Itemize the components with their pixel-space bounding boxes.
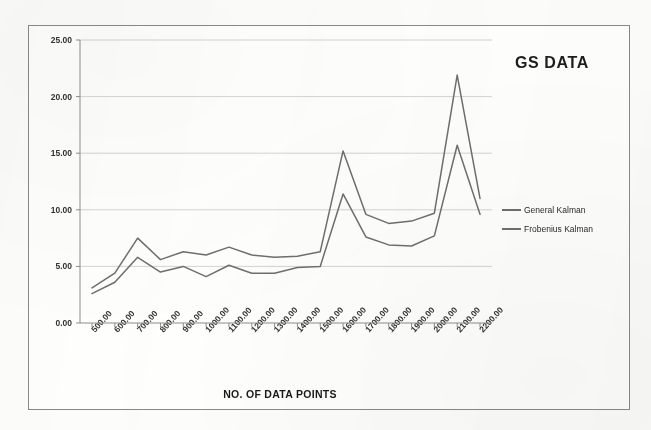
y-tick-label: 10.00	[51, 205, 73, 215]
y-tick-label: 20.00	[51, 92, 73, 102]
x-tick-label: 600.00	[112, 308, 137, 334]
x-tick-label: 1100.00	[226, 305, 254, 334]
x-tick-label: 700.00	[135, 308, 160, 334]
legend-swatch-frobenius-kalman	[502, 228, 521, 230]
x-tick-label: 500.00	[89, 308, 114, 334]
x-tick-label: 900.00	[180, 308, 205, 334]
x-tick-label: 800.00	[158, 308, 183, 334]
data-series-group	[92, 75, 480, 293]
x-tick-label: 2200.00	[477, 305, 505, 335]
y-tick-marks-group	[76, 40, 80, 323]
legend-swatch-general-kalman	[502, 209, 521, 211]
x-tick-labels-group: 500.00600.00700.00800.00900.001000.00110…	[89, 305, 505, 335]
legend-label-frobenius-kalman: Frobenius Kalman	[524, 224, 593, 234]
y-tick-labels-group: 0.005.0010.0015.0020.0025.00	[51, 35, 73, 328]
series-line-frobenius-kalman	[92, 75, 480, 288]
y-tick-label: 5.00	[55, 261, 72, 271]
gridlines-group	[80, 40, 492, 266]
x-axis-title: NO. OF DATA POINTS	[0, 388, 560, 400]
legend-item-frobenius-kalman: Frobenius Kalman	[502, 219, 622, 238]
series-line-general-kalman	[92, 145, 480, 293]
chart-legend: General Kalman Frobenius Kalman	[502, 200, 622, 238]
y-tick-label: 0.00	[55, 318, 72, 328]
legend-label-general-kalman: General Kalman	[524, 205, 585, 215]
y-tick-label: 25.00	[51, 35, 73, 45]
y-tick-label: 15.00	[51, 148, 73, 158]
legend-item-general-kalman: General Kalman	[502, 200, 622, 219]
